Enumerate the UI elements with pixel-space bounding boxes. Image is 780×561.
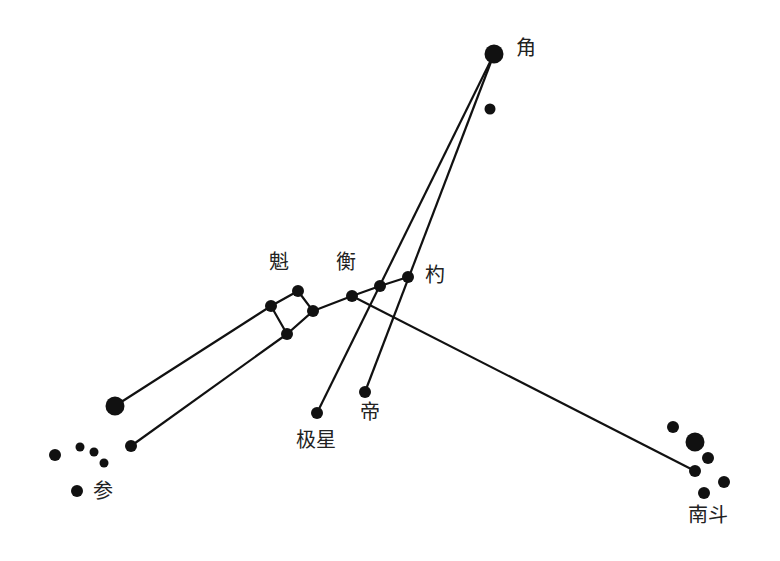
star-handle-2: [374, 280, 386, 292]
line-shen-to-kui-upper: [115, 306, 271, 406]
star-nandou-3: [702, 452, 714, 464]
line-heng-to-nandou: [352, 296, 695, 471]
label-shen: 参: [93, 481, 113, 501]
line-shen-to-kui-lower: [131, 334, 287, 446]
star-kui-1: [265, 300, 277, 312]
label-kui: 魁: [269, 252, 289, 272]
star-shen-c: [90, 448, 99, 457]
star-shen-d: [100, 459, 109, 468]
connection-lines: [115, 54, 695, 471]
star-kui-2: [292, 285, 304, 297]
star-nandou-6: [698, 487, 710, 499]
star-nandou-4: [689, 465, 701, 477]
label-jiao: 角: [516, 38, 536, 58]
label-nandou: 南斗: [688, 505, 728, 525]
star-jiao-major: [485, 45, 504, 64]
label-shao: 杓: [425, 265, 445, 285]
star-nandou-1: [667, 421, 679, 433]
star-jixing: [311, 407, 323, 419]
star-shen-a: [49, 449, 61, 461]
star-shen-end: [125, 440, 137, 452]
star-diagram: [0, 0, 780, 561]
star-heng: [346, 290, 358, 302]
line-jixing-to-jiao: [317, 54, 494, 413]
label-di: 帝: [360, 402, 380, 422]
kui-quadrilateral: [271, 291, 313, 334]
star-shen-b: [76, 443, 85, 452]
star-shen-e: [71, 485, 83, 497]
star-kui-3: [307, 305, 319, 317]
label-heng: 衡: [336, 252, 356, 272]
line-di-to-jiao: [365, 54, 494, 392]
star-nandou-5: [718, 476, 730, 488]
dipper-handle: [313, 277, 408, 311]
star-shen-major: [106, 397, 125, 416]
label-jixing: 极星: [296, 430, 336, 450]
star-kui-4: [281, 328, 293, 340]
star-shao: [402, 271, 414, 283]
star-jiao-minor: [485, 104, 496, 115]
star-di: [359, 386, 371, 398]
star-nandou-2: [686, 433, 705, 452]
